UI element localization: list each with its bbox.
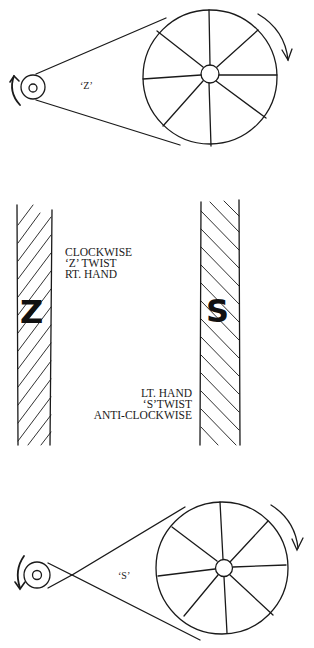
top-belt-upper [36, 18, 166, 74]
bottom-belt-label: ‘S’ [118, 570, 130, 581]
top-belt-label: ‘Z’ [80, 80, 93, 91]
bottom-spindle-inner [33, 571, 42, 580]
spinning-twist-diagram [0, 0, 314, 648]
bottom-spindle-outer [24, 562, 50, 588]
top-belt-lower [36, 100, 180, 145]
s-strand-letter: S [206, 292, 229, 330]
s-label-line-3: ANTI-CLOCKWISE [94, 410, 192, 421]
top-drive [10, 10, 292, 146]
bottom-belt-upper [48, 507, 185, 575]
z-label-line-3: RT. HAND [65, 269, 132, 280]
s-twist-labels: LT. HAND ‘S’TWIST ANTI-CLOCKWISE [94, 388, 192, 421]
bottom-wheel-spokes [158, 502, 286, 633]
bottom-spindle-arrow [18, 556, 24, 588]
top-wheel-hub [201, 65, 219, 83]
z-twist-labels: CLOCKWISE ‘Z’ TWIST RT. HAND [65, 247, 132, 280]
bottom-wheel-arrow [271, 505, 298, 548]
z-strand-letter: Z [20, 293, 43, 331]
bottom-wheel-rim [156, 502, 288, 634]
bottom-drive [15, 502, 303, 640]
top-spindle-outer [21, 75, 45, 99]
top-spindle-inner [29, 84, 37, 92]
bottom-belt-lower [48, 575, 200, 640]
